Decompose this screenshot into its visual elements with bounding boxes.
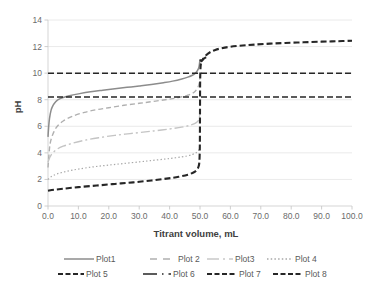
legend-label-plot-4[interactable]: Plot 4 — [295, 254, 317, 264]
legend-label-plot-8[interactable]: Plot 8 — [305, 269, 327, 279]
x-axis-title: Titrant volume, mL — [154, 228, 239, 239]
x-tick-label: 40.0 — [161, 211, 178, 221]
titration-chart: 02468101214 0.010.020.030.040.050.060.07… — [0, 0, 374, 298]
legend-label-plot-6[interactable]: Plot 6 — [173, 269, 195, 279]
x-tick-label: 30.0 — [131, 211, 148, 221]
y-tick-label: 8 — [37, 95, 42, 105]
x-tick-label: 80.0 — [283, 211, 300, 221]
legend-label-plot-2[interactable]: Plot 2 — [178, 254, 200, 264]
y-tick-labels: 02468101214 — [33, 15, 43, 211]
y-tick-label: 0 — [37, 201, 42, 211]
y-tick-label: 6 — [37, 121, 42, 131]
x-tick-label: 0.0 — [42, 211, 54, 221]
series-line-2 — [48, 76, 200, 168]
x-tick-label: 20.0 — [101, 211, 118, 221]
x-tick-label: 70.0 — [253, 211, 270, 221]
series-group — [48, 41, 352, 191]
legend-label-plot1[interactable]: Plot1 — [96, 254, 116, 264]
series-line-4 — [48, 147, 200, 180]
chart-legend: Plot1Plot 2Plot3Plot 4Plot 5Plot 6Plot 7… — [58, 254, 327, 279]
series-line-3 — [48, 114, 200, 162]
y-tick-label: 12 — [33, 42, 43, 52]
x-tick-label: 10.0 — [70, 211, 87, 221]
x-tick-label: 100.0 — [341, 211, 363, 221]
x-tick-label: 50.0 — [192, 211, 209, 221]
x-tick-label: 90.0 — [313, 211, 330, 221]
series-line-7 — [200, 41, 352, 61]
x-tick-label: 60.0 — [222, 211, 239, 221]
y-axis-title: pH — [12, 101, 23, 114]
series-line-1 — [48, 59, 200, 137]
legend-label-plot-5[interactable]: Plot 5 — [86, 269, 108, 279]
y-tick-label: 10 — [33, 68, 43, 78]
chart-canvas: 02468101214 0.010.020.030.040.050.060.07… — [0, 0, 374, 298]
y-tick-label: 2 — [37, 174, 42, 184]
y-tick-label: 4 — [37, 148, 42, 158]
legend-label-plot3[interactable]: Plot3 — [235, 254, 255, 264]
axes-group — [45, 20, 353, 210]
legend-label-plot-7[interactable]: Plot 7 — [239, 269, 261, 279]
x-tick-labels: 0.010.020.030.040.050.060.070.080.090.01… — [42, 211, 363, 221]
y-tick-label: 14 — [33, 15, 43, 25]
